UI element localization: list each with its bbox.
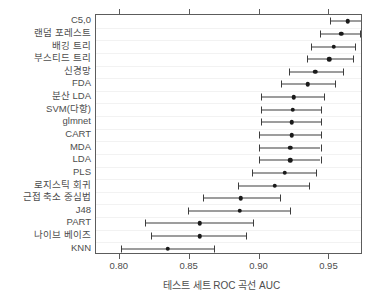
y-axis-label: LDA <box>73 153 91 165</box>
x-tick-top <box>119 9 120 14</box>
x-axis-title-text: 테스트 세트 ROC 곡선 AUC <box>163 277 280 292</box>
error-bar-cap-upper <box>343 68 344 75</box>
error-bar-cap-upper <box>321 119 322 126</box>
x-tick-bottom <box>328 254 329 259</box>
y-axis-label: PART <box>67 216 91 228</box>
error-bar-cap-lower <box>311 43 312 50</box>
x-tick-label: 0.90 <box>249 260 268 271</box>
data-point <box>331 44 336 49</box>
error-bar-cap-lower <box>259 157 260 164</box>
data-row <box>96 167 361 179</box>
error-bar-cap-upper <box>360 30 361 37</box>
y-axis-category-labels: C5,0랜덤 포레스트배깅 트리부스티드 트리신경망FDA분산 LDASVM(다… <box>0 14 91 254</box>
data-row <box>96 230 361 242</box>
error-bar-cap-upper <box>316 169 317 176</box>
error-bar-cap-upper <box>321 157 322 164</box>
error-bar-cap-lower <box>145 220 146 227</box>
data-point <box>197 234 202 239</box>
data-point <box>345 19 350 24</box>
data-row <box>96 66 361 78</box>
data-row <box>96 192 361 204</box>
error-bar-cap-upper <box>324 94 325 101</box>
data-point <box>339 32 344 37</box>
data-row <box>96 154 361 166</box>
error-bar-cap-lower <box>121 245 122 252</box>
data-row <box>96 104 361 116</box>
data-point <box>327 57 332 62</box>
data-point <box>289 120 294 125</box>
y-axis-label: C5,0 <box>71 14 91 26</box>
error-bar-cap-lower <box>307 56 308 63</box>
error-bar-cap-upper <box>321 132 322 139</box>
error-bar-cap-lower <box>203 195 204 202</box>
error-bar-cap-lower <box>259 144 260 151</box>
y-axis-label: KNN <box>71 242 91 254</box>
data-point <box>282 171 287 176</box>
error-bar-cap-lower <box>320 30 321 37</box>
error-bar-cap-lower <box>261 94 262 101</box>
error-bar-cap-upper <box>214 245 215 252</box>
y-axis-label: glmnet <box>62 115 91 127</box>
x-tick-bottom <box>189 254 190 259</box>
error-bar-cap-upper <box>280 195 281 202</box>
roc-auc-dot-plot: C5,0랜덤 포레스트배깅 트리부스티드 트리신경망FDA분산 LDASVM(다… <box>0 0 375 299</box>
error-bar-cap-lower <box>188 207 189 214</box>
data-point <box>272 183 277 188</box>
y-axis-label: 신경망 <box>64 65 91 77</box>
data-point <box>197 221 202 226</box>
y-axis-label: CART <box>65 128 91 140</box>
data-row <box>96 91 361 103</box>
error-bar-cap-upper <box>309 182 310 189</box>
data-point <box>313 70 318 75</box>
error-bar-cap-upper <box>253 220 254 227</box>
data-point <box>288 158 293 163</box>
data-row <box>96 116 361 128</box>
error-bar-cap-lower <box>238 182 239 189</box>
data-point <box>289 133 294 138</box>
data-row <box>96 217 361 229</box>
error-bar-cap-lower <box>281 81 282 88</box>
y-axis-label: 근접 축소 중심법 <box>23 191 91 203</box>
y-axis-label: MDA <box>70 141 91 153</box>
error-bar-cap-lower <box>330 18 331 25</box>
error-bar-cap-lower <box>289 68 290 75</box>
x-tick-top <box>189 9 190 14</box>
error-bar-cap-lower <box>252 169 253 176</box>
error-bar-cap-upper <box>321 144 322 151</box>
y-axis-label: 분산 LDA <box>52 90 91 102</box>
data-row <box>96 142 361 154</box>
y-axis-label: FDA <box>72 77 91 89</box>
x-tick-top <box>259 9 260 14</box>
data-row <box>96 15 361 27</box>
y-axis-label: 로지스틱 회귀 <box>34 179 91 191</box>
data-point <box>237 209 242 214</box>
data-row <box>96 41 361 53</box>
y-axis-label: 나이브 베이즈 <box>34 229 91 241</box>
data-point <box>165 246 170 251</box>
error-bar-cap-upper <box>290 207 291 214</box>
data-row <box>96 28 361 40</box>
x-tick-label: 0.85 <box>179 260 198 271</box>
x-tick-top <box>328 9 329 14</box>
y-axis-label: J48 <box>76 204 91 216</box>
error-bar-cap-upper <box>355 43 356 50</box>
error-bar-cap-lower <box>259 132 260 139</box>
data-row <box>96 205 361 217</box>
y-axis-label: 부스티드 트리 <box>34 52 91 64</box>
y-axis-label: 배깅 트리 <box>52 40 91 52</box>
error-bar-cap-lower <box>261 106 262 113</box>
error-bar-cap-lower <box>261 119 262 126</box>
error-bar-cap-upper <box>321 106 322 113</box>
data-point <box>306 82 311 87</box>
error-bar-cap-upper <box>335 81 336 88</box>
data-point <box>288 145 293 150</box>
data-point <box>238 196 243 201</box>
error-bar-cap-lower <box>151 233 152 240</box>
data-row <box>96 53 361 65</box>
x-tick-label: 0.80 <box>110 260 129 271</box>
data-point <box>291 95 296 100</box>
data-row <box>96 243 361 254</box>
data-row <box>96 180 361 192</box>
error-bar-cap-upper <box>353 56 354 63</box>
error-bar-cap-upper <box>246 233 247 240</box>
